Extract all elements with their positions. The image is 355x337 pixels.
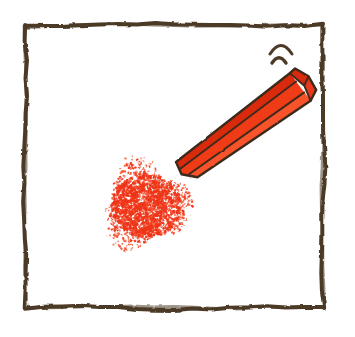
paper-background — [0, 0, 355, 337]
illustration-canvas: Red crayon with scribbled patch — [0, 0, 355, 337]
crayon-illustration — [0, 0, 355, 337]
